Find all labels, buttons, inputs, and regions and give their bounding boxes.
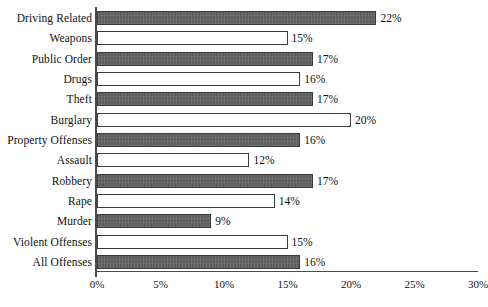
category-label: Rape [68,195,92,207]
category-label: Violent Offenses [13,236,92,248]
bar-value-label: 9% [211,215,230,227]
horizontal-bar-chart: Driving Related22%Weapons15%Public Order… [0,0,488,307]
bar-row: Property Offenses16% [0,130,488,150]
bar-value-label: 22% [376,12,401,24]
bar [97,153,249,167]
bar-value-label: 20% [351,114,376,126]
bar-row: Robbery17% [0,170,488,190]
bar-value-label: 16% [300,256,325,268]
x-axis-tick-label: 25% [404,278,424,290]
bar [97,31,288,45]
bar-value-label: 16% [300,73,325,85]
bar [97,214,211,228]
bar-row: Theft17% [0,89,488,109]
bar [97,174,313,188]
x-axis-tick-label: 15% [277,278,297,290]
bar-row: Rape14% [0,191,488,211]
bar [97,113,351,127]
category-label: Theft [67,93,92,105]
category-label: Robbery [52,175,92,187]
x-axis-tick-label: 30% [468,278,488,290]
bar-row: All Offenses16% [0,252,488,272]
bar-row: Public Order17% [0,49,488,69]
category-label: Murder [57,215,92,227]
bar-value-label: 16% [300,134,325,146]
category-label: Assault [57,154,92,166]
bar-row: Burglary20% [0,110,488,130]
bar-row: Weapons15% [0,28,488,48]
bar [97,133,300,147]
bar-value-label: 15% [288,32,313,44]
bar-row: Drugs16% [0,69,488,89]
bar [97,235,288,249]
bar-value-label: 17% [313,53,338,65]
bar [97,52,313,66]
bar-value-label: 17% [313,93,338,105]
bar-value-label: 14% [275,195,300,207]
bar-value-label: 12% [249,154,274,166]
x-axis-tick-label: 10% [214,278,234,290]
category-label: Property Offenses [7,134,92,146]
category-label: All Offenses [33,256,92,268]
category-label: Public Order [32,53,92,65]
category-label: Driving Related [17,12,92,24]
x-axis-tick-label: 20% [341,278,361,290]
category-label: Weapons [49,32,92,44]
x-axis-tick-label: 0% [90,278,105,290]
bar-row: Violent Offenses15% [0,231,488,251]
bar-value-label: 15% [288,236,313,248]
bar-row: Assault12% [0,150,488,170]
bar-row: Murder9% [0,211,488,231]
bar [97,11,376,25]
category-label: Burglary [51,114,92,126]
x-axis-tick-label: 5% [153,278,168,290]
bar [97,194,275,208]
bar-row: Driving Related22% [0,8,488,28]
bar-value-label: 17% [313,175,338,187]
bar [97,92,313,106]
bar [97,72,300,86]
bar [97,255,300,269]
category-label: Drugs [63,73,92,85]
